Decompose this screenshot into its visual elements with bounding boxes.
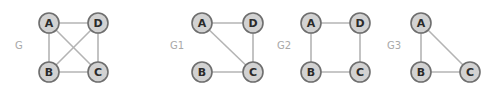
node-c: C bbox=[88, 62, 108, 82]
graph-label: G3 bbox=[387, 40, 401, 51]
graph-label: G2 bbox=[277, 40, 291, 51]
node-b: B bbox=[411, 62, 431, 82]
node-label: A bbox=[45, 17, 54, 30]
node-a: A bbox=[301, 13, 321, 33]
node-d: D bbox=[243, 13, 263, 33]
node-b: B bbox=[39, 62, 59, 82]
node-label: B bbox=[417, 66, 425, 79]
node-label: A bbox=[198, 17, 207, 30]
graph-label: G1 bbox=[170, 40, 184, 51]
node-b: B bbox=[301, 62, 321, 82]
node-label: A bbox=[417, 17, 426, 30]
node-label: D bbox=[248, 17, 257, 30]
graph-g3: G3ABC bbox=[387, 13, 480, 82]
graph-g1: G1ADBC bbox=[170, 13, 263, 82]
node-c: C bbox=[460, 62, 480, 82]
node-label: C bbox=[356, 66, 364, 79]
node-a: A bbox=[411, 13, 431, 33]
node-d: D bbox=[88, 13, 108, 33]
node-label: B bbox=[307, 66, 315, 79]
graph-label: G bbox=[15, 40, 23, 51]
node-a: A bbox=[192, 13, 212, 33]
node-b: B bbox=[192, 62, 212, 82]
node-label: D bbox=[355, 17, 364, 30]
graph-g2: G2ADBC bbox=[277, 13, 370, 82]
node-label: B bbox=[198, 66, 206, 79]
node-label: D bbox=[93, 17, 102, 30]
node-label: C bbox=[466, 66, 474, 79]
node-d: D bbox=[350, 13, 370, 33]
graph-g: GADBC bbox=[15, 13, 108, 82]
graph-diagram: GADBCG1ADBCG2ADBCG3ABC bbox=[0, 0, 494, 93]
node-c: C bbox=[243, 62, 263, 82]
node-label: C bbox=[249, 66, 257, 79]
node-label: C bbox=[94, 66, 102, 79]
node-label: B bbox=[45, 66, 53, 79]
node-label: A bbox=[307, 17, 316, 30]
node-a: A bbox=[39, 13, 59, 33]
node-c: C bbox=[350, 62, 370, 82]
